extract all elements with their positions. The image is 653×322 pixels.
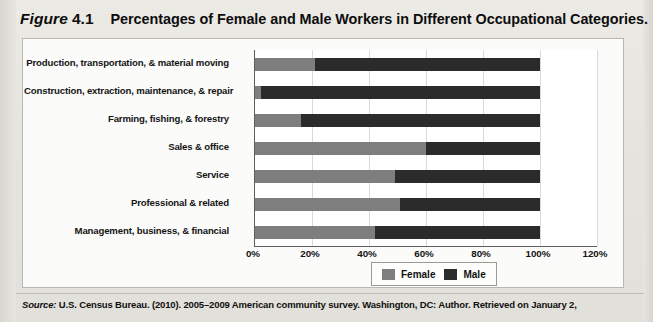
bar-segment-female	[255, 226, 375, 239]
source-divider	[16, 293, 644, 294]
stacked-bar	[255, 226, 540, 239]
bar-segment-male	[301, 114, 540, 127]
bar-segment-male	[315, 58, 540, 71]
stacked-bar	[255, 58, 540, 71]
bar-segment-female	[255, 142, 426, 155]
bar-segment-female	[255, 58, 315, 71]
x-axis-tick-label: 0%	[246, 248, 260, 259]
bar-row	[255, 190, 597, 218]
stacked-bar	[255, 86, 540, 99]
source-label: Source:	[22, 299, 56, 310]
x-axis-labels: 0%20%40%60%80%100%120%	[22, 248, 622, 264]
bar-segment-female	[255, 170, 395, 183]
bar-row	[255, 134, 597, 162]
source-note: Source: U.S. Census Bureau. (2010). 2005…	[22, 299, 642, 310]
figure-number: 4.1	[72, 10, 94, 28]
figure-title: Percentages of Female and Male Workers i…	[111, 11, 648, 27]
stacked-bar	[255, 170, 540, 183]
y-axis-label: Service	[24, 169, 229, 180]
legend-label-male: Male	[463, 269, 485, 280]
y-axis-label: Production, transportation, & material m…	[24, 57, 229, 68]
figure-title-bar: Figure 4.1 Percentages of Female and Mal…	[20, 6, 640, 32]
y-axis-label: Professional & related	[24, 197, 229, 208]
female-swatch-icon	[382, 269, 395, 280]
male-swatch-icon	[444, 269, 457, 280]
bar-segment-male	[426, 142, 540, 155]
gridline-120	[597, 50, 598, 246]
bar-row	[255, 218, 597, 246]
bar-row	[255, 50, 597, 78]
figure-label: Figure	[20, 10, 68, 28]
legend-label-female: Female	[401, 269, 435, 280]
y-axis-label: Farming, fishing, & forestry	[24, 113, 229, 124]
bar-segment-male	[400, 198, 540, 211]
x-axis-tick-label: 100%	[525, 248, 550, 259]
x-axis-tick-label: 80%	[471, 248, 491, 259]
stacked-bar	[255, 114, 540, 127]
x-axis-tick-label: 40%	[357, 248, 377, 259]
bar-row	[255, 78, 597, 106]
bar-segment-female	[255, 114, 301, 127]
page-left-margin	[0, 0, 16, 322]
stacked-bar	[255, 142, 540, 155]
bar-segment-male	[375, 226, 540, 239]
x-axis-tick-label: 120%	[582, 248, 607, 259]
x-axis-tick-label: 60%	[414, 248, 434, 259]
y-axis-label: Sales & office	[24, 141, 229, 152]
x-axis-tick-label: 20%	[300, 248, 320, 259]
bar-row	[255, 106, 597, 134]
chart-legend: Female Male	[371, 262, 497, 286]
legend-item-female: Female	[382, 269, 435, 280]
y-axis-labels: Production, transportation, & material m…	[24, 49, 229, 245]
y-axis-label: Management, business, & financial	[24, 225, 229, 236]
stacked-bar	[255, 198, 540, 211]
bar-segment-female	[255, 198, 400, 211]
page-right-margin	[643, 0, 653, 322]
bar-row	[255, 162, 597, 190]
plot-area	[254, 50, 597, 247]
legend-item-male: Male	[444, 269, 485, 280]
bar-segment-male	[261, 86, 540, 99]
source-text: U.S. Census Bureau. (2010). 2005–2009 Am…	[59, 299, 577, 310]
bar-segment-male	[395, 170, 540, 183]
y-axis-label: Construction, extraction, maintenance, &…	[24, 85, 229, 96]
textbook-page: Figure 4.1 Percentages of Female and Mal…	[0, 0, 653, 322]
bar-rows	[255, 50, 597, 246]
